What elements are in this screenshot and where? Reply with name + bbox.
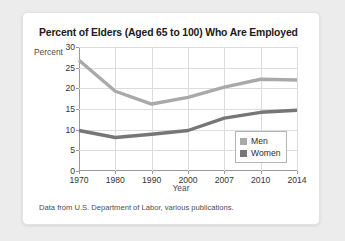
x-axis-tick-mark: [188, 171, 189, 174]
x-axis-tick-mark: [79, 171, 80, 174]
x-axis-label: Year: [173, 183, 190, 193]
y-axis-tick-label: 15: [65, 104, 75, 114]
x-axis-tick-mark: [115, 171, 116, 174]
page-title: Percent of Elders (Aged 65 to 100) Who A…: [39, 27, 309, 38]
legend-item-men: Men: [240, 135, 280, 147]
chart-card: Percent of Elders (Aged 65 to 100) Who A…: [22, 12, 320, 225]
y-axis-tick-label: 25: [65, 63, 75, 73]
x-axis-tick-mark: [152, 171, 153, 174]
legend[interactable]: Men Women: [235, 131, 287, 163]
plot-area: 051015202530 197019801990200020072010201…: [79, 47, 297, 171]
legend-swatch-men: [240, 138, 247, 145]
x-axis-label-wrap: Year: [23, 183, 319, 193]
series-line-men: [79, 60, 297, 104]
screenshot-root: Percent of Elders (Aged 65 to 100) Who A…: [0, 0, 345, 241]
legend-item-women: Women: [240, 147, 280, 159]
x-axis-tick-mark: [224, 171, 225, 174]
legend-label-men: Men: [251, 137, 268, 146]
legend-swatch-women: [240, 150, 247, 157]
y-axis-tick-label: 5: [70, 145, 75, 155]
x-axis-tick-mark: [297, 171, 298, 174]
x-axis-tick-mark: [261, 171, 262, 174]
y-axis-tick-label: 30: [65, 42, 75, 52]
y-axis-tick-label: 10: [65, 125, 75, 135]
gridline-vertical: [297, 47, 298, 171]
y-axis-label: Percent: [34, 47, 63, 57]
y-axis-tick-label: 20: [65, 83, 75, 93]
source-note: Data from U.S. Department of Labor, vari…: [39, 203, 311, 212]
legend-label-women: Women: [251, 149, 280, 158]
